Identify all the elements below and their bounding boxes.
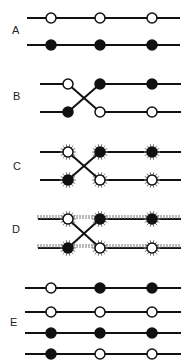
filled-node bbox=[147, 328, 157, 338]
open-node bbox=[147, 107, 157, 117]
filled-node bbox=[63, 243, 73, 253]
filled-node bbox=[95, 214, 105, 224]
filled-node bbox=[95, 283, 105, 293]
filled-node bbox=[95, 40, 105, 50]
filled-node bbox=[95, 147, 105, 157]
open-node bbox=[147, 307, 157, 317]
open-node bbox=[63, 147, 73, 157]
filled-node bbox=[95, 79, 105, 89]
filled-node bbox=[63, 175, 73, 185]
filled-node bbox=[46, 349, 56, 359]
open-node bbox=[147, 243, 157, 253]
filled-node bbox=[147, 79, 157, 89]
filled-node bbox=[147, 283, 157, 293]
filled-node bbox=[147, 147, 157, 157]
chromosome-diagram bbox=[0, 0, 196, 363]
open-node bbox=[46, 13, 56, 23]
filled-node bbox=[147, 40, 157, 50]
filled-node bbox=[46, 328, 56, 338]
open-node bbox=[95, 13, 105, 23]
open-node bbox=[95, 175, 105, 185]
filled-node bbox=[63, 107, 73, 117]
open-node bbox=[95, 349, 105, 359]
open-node bbox=[46, 307, 56, 317]
open-node bbox=[147, 13, 157, 23]
open-node bbox=[147, 175, 157, 185]
open-node bbox=[95, 243, 105, 253]
open-node bbox=[95, 107, 105, 117]
open-node bbox=[63, 214, 73, 224]
filled-node bbox=[46, 40, 56, 50]
filled-node bbox=[147, 214, 157, 224]
open-node bbox=[95, 307, 105, 317]
open-node bbox=[147, 349, 157, 359]
filled-node bbox=[95, 328, 105, 338]
open-node bbox=[46, 283, 56, 293]
open-node bbox=[63, 79, 73, 89]
